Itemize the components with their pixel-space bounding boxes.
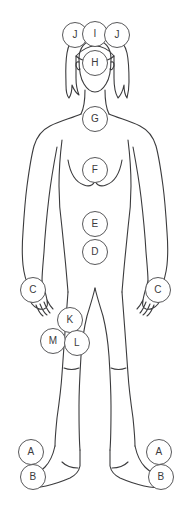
marker-label: J xyxy=(114,30,119,40)
marker-e-abdomen[interactable]: E xyxy=(82,211,108,237)
marker-layer: JIJHGFEDCCKMLABAB xyxy=(0,0,187,530)
marker-label: I xyxy=(94,29,97,39)
marker-d-lower-abdomen[interactable]: D xyxy=(82,239,108,265)
marker-label: B xyxy=(30,472,37,482)
marker-label: B xyxy=(158,472,165,482)
marker-label: C xyxy=(154,285,161,295)
marker-b-foot-right[interactable]: B xyxy=(148,464,174,490)
marker-label: K xyxy=(67,315,74,325)
marker-label: D xyxy=(91,247,98,257)
marker-j-right[interactable]: J xyxy=(104,22,130,48)
marker-b-foot-left[interactable]: B xyxy=(20,464,46,490)
marker-k-thigh[interactable]: K xyxy=(57,307,83,333)
marker-f-chest[interactable]: F xyxy=(82,157,108,183)
marker-label: G xyxy=(91,114,99,124)
marker-l-thigh-inner[interactable]: L xyxy=(64,330,90,356)
marker-label: M xyxy=(49,336,58,346)
marker-label: J xyxy=(72,30,77,40)
marker-label: L xyxy=(74,338,80,348)
marker-c-hand-right[interactable]: C xyxy=(145,277,171,303)
marker-label: E xyxy=(92,219,99,229)
marker-label: A xyxy=(28,447,35,457)
marker-m-thigh-outer[interactable]: M xyxy=(40,328,66,354)
marker-a-ankle-left[interactable]: A xyxy=(18,439,44,465)
marker-label: H xyxy=(91,58,98,68)
marker-label: A xyxy=(156,447,163,457)
marker-g-neck[interactable]: G xyxy=(82,106,108,132)
marker-label: C xyxy=(29,285,36,295)
marker-h-face[interactable]: H xyxy=(82,50,108,76)
marker-c-hand-left[interactable]: C xyxy=(20,277,46,303)
body-region-diagram: JIJHGFEDCCKMLABAB xyxy=(0,0,187,530)
marker-label: F xyxy=(92,165,98,175)
marker-a-ankle-right[interactable]: A xyxy=(146,439,172,465)
